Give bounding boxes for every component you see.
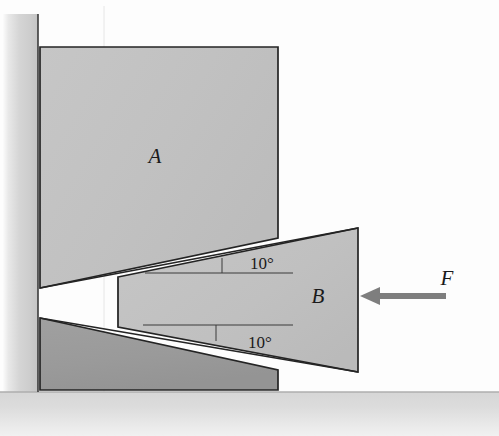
block-a-label: A [147, 144, 162, 168]
wedge-friction-diagram: 10° 10° A B F [0, 0, 499, 436]
wedge-b-label: B [312, 284, 325, 308]
figure-container: 10° 10° A B F [0, 0, 499, 436]
lower-angle-label: 10° [248, 333, 272, 352]
upper-angle-label: 10° [250, 254, 274, 273]
wall-support [2, 14, 38, 436]
ground-surface [0, 392, 499, 436]
force-label: F [440, 266, 454, 290]
